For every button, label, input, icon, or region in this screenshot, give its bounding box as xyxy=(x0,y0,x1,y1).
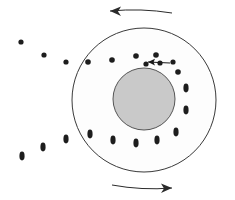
field-dot-3 xyxy=(63,59,68,64)
top-rotation-arrow-head xyxy=(110,7,121,17)
ring-dot-top-3 xyxy=(133,53,139,59)
field-dot-1 xyxy=(18,39,23,44)
ring-dot-arrow-head xyxy=(170,59,175,64)
ring-pair-bottom-1 xyxy=(110,136,115,145)
figure-container xyxy=(0,0,235,200)
ring-dot-arrow-mid xyxy=(157,60,162,65)
ring-dot-arrow-tail xyxy=(143,61,148,66)
ring-pair-right-1 xyxy=(183,84,188,93)
field-pair-2 xyxy=(40,143,45,152)
ring-pair-bottom-3 xyxy=(154,136,159,145)
ring-pair-left-lower xyxy=(87,130,92,139)
field-dot-2 xyxy=(41,52,46,57)
top-rotation-arrow-shaft xyxy=(110,10,172,13)
field-pair-1 xyxy=(19,152,24,161)
ring-pair-bottom-2 xyxy=(133,139,138,148)
ring-pair-right-2 xyxy=(183,106,188,115)
rotating-disk-diagram xyxy=(0,0,235,200)
ring-dot-top-1 xyxy=(85,59,91,65)
disk-group xyxy=(72,28,216,172)
top-rotation-arrow xyxy=(110,7,172,17)
ring-dot-top-2 xyxy=(109,57,115,63)
inner-core-circle xyxy=(113,68,175,130)
field-pair-3 xyxy=(63,135,68,144)
ring-dot-top-4 xyxy=(153,52,159,58)
ring-dot-right-upper xyxy=(175,69,181,75)
bottom-rotation-arrow xyxy=(112,184,172,194)
ring-pair-bottom-4 xyxy=(173,128,178,137)
